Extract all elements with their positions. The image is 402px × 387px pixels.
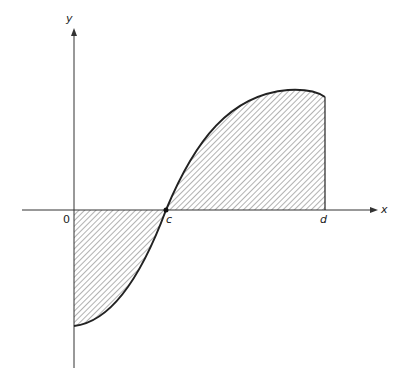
origin-label: 0 (63, 213, 70, 226)
diagram: y x 0 c d (0, 0, 402, 387)
c-label: c (166, 213, 172, 226)
root-point (164, 208, 169, 213)
shaded-region (74, 90, 325, 326)
x-axis-label: x (381, 203, 388, 216)
d-label: d (320, 213, 327, 226)
y-axis-arrow-icon (71, 28, 77, 36)
area-diagram-svg (0, 0, 402, 387)
y-axis-label: y (66, 12, 73, 25)
x-axis-arrow-icon (370, 207, 378, 213)
